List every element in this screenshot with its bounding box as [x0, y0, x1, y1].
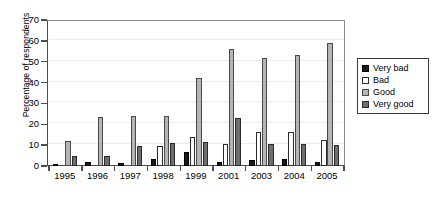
bar [184, 152, 189, 166]
bar [131, 116, 136, 166]
y-axis-tick-label: 40 [3, 78, 39, 88]
legend-swatch-icon [362, 77, 369, 84]
bar [170, 143, 175, 166]
bar [288, 132, 293, 166]
legend-swatch-icon [362, 65, 369, 72]
bar-group [147, 20, 180, 166]
y-axis-tick-label: 70 [3, 15, 39, 25]
bar [229, 49, 234, 166]
bar-group [278, 20, 311, 166]
bar [235, 118, 240, 166]
bar [268, 144, 273, 166]
legend-item: Very bad [362, 62, 425, 74]
bar-group [114, 20, 147, 166]
legend-swatch-icon [362, 89, 369, 96]
legend-item-label: Bad [373, 75, 389, 85]
bar [334, 145, 339, 166]
legend-item-label: Very bad [373, 63, 409, 73]
bar [118, 163, 123, 166]
bar [301, 144, 306, 166]
x-axis-tick-label: 2005 [304, 170, 350, 181]
bar [217, 162, 222, 166]
y-axis-tick-label: 30 [3, 98, 39, 108]
bar-group [81, 20, 114, 166]
legend-item: Good [362, 86, 425, 98]
bar-chart-figure: Percentage of respondents 01020304050607… [0, 0, 432, 200]
bar [256, 132, 261, 166]
legend-item-label: Very good [373, 99, 414, 109]
bar-group [180, 20, 213, 166]
bar [295, 55, 300, 166]
y-axis-tick-label: 60 [3, 36, 39, 46]
bar [190, 137, 195, 166]
y-axis-tick-label: 20 [3, 119, 39, 129]
bar [164, 116, 169, 166]
bar-group [311, 20, 344, 166]
bar [53, 164, 58, 166]
bar [249, 160, 254, 166]
bar [282, 159, 287, 166]
bar-group [48, 20, 81, 166]
bar [223, 144, 228, 166]
legend: Very badBadGoodVery good [357, 58, 429, 114]
legend-item: Very good [362, 98, 425, 110]
bar [137, 146, 142, 166]
y-axis-tick-label: 0 [3, 161, 39, 171]
bar-groups [48, 20, 343, 166]
bar [327, 43, 332, 166]
bar [203, 142, 208, 166]
bar [157, 146, 162, 166]
bar [262, 58, 267, 166]
bar [65, 141, 70, 166]
bar [315, 162, 320, 166]
bar [85, 162, 90, 166]
y-axis-tick-label: 10 [3, 140, 39, 150]
bar [151, 159, 156, 166]
bar [196, 78, 201, 166]
bar [321, 140, 326, 166]
y-axis-tick-label: 50 [3, 57, 39, 67]
bar [104, 156, 109, 166]
legend-item-label: Good [373, 87, 395, 97]
bar-group [245, 20, 278, 166]
bar-group [212, 20, 245, 166]
legend-item: Bad [362, 74, 425, 86]
bar [72, 156, 77, 166]
legend-swatch-icon [362, 101, 369, 108]
bar [98, 117, 103, 166]
